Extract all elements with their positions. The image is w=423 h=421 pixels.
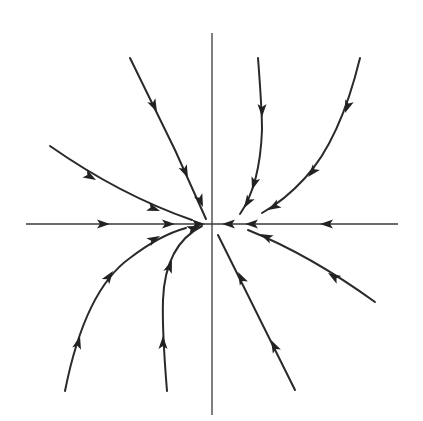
arrowhead-icon: [305, 164, 320, 180]
trajectory-upper-center-right: [240, 58, 262, 214]
trajectory-upper-right: [262, 58, 360, 213]
arrowhead-group: [72, 98, 353, 353]
trajectory-left-shallow: [50, 146, 192, 220]
arrowhead-icon: [147, 98, 161, 114]
arrowhead-icon: [267, 338, 281, 354]
trajectory-upper-left-steep: [130, 58, 206, 219]
trajectory-lower-center-left: [163, 226, 202, 391]
arrowhead-icon: [258, 230, 274, 244]
trajectory-lower-right-steep: [218, 235, 295, 390]
arrowhead-icon: [248, 176, 260, 191]
arrowhead-icon: [240, 195, 255, 211]
phase-portrait: [0, 0, 423, 421]
trajectory-lower-left: [65, 228, 186, 391]
arrowhead-icon: [179, 164, 193, 180]
